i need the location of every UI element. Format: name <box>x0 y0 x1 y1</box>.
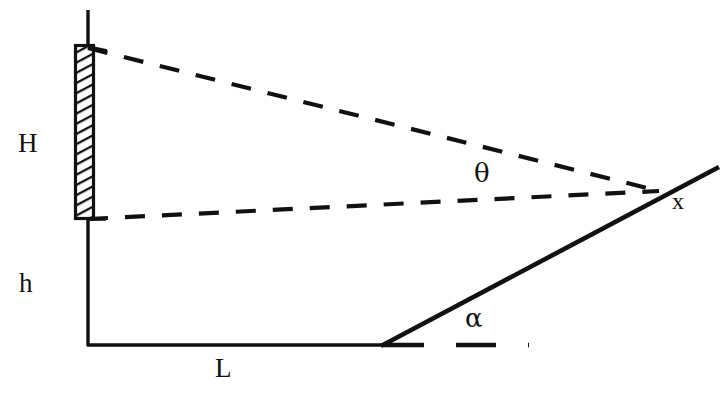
label-distance: x <box>672 189 684 213</box>
label-slope-angle: α <box>465 305 483 331</box>
upper-dashed-sight-line <box>88 48 659 191</box>
label-height-lower: h <box>19 270 33 297</box>
label-view-angle: θ <box>474 160 490 186</box>
hatched-panel <box>76 46 94 219</box>
inclined-slope-line <box>381 167 719 346</box>
lower-dashed-sight-line <box>88 191 659 219</box>
diagram-vector-layer <box>0 0 727 395</box>
label-height-upper: H <box>18 130 38 157</box>
label-base-length: L <box>215 355 232 382</box>
diagram-canvas: H h L θ α x <box>0 0 727 395</box>
